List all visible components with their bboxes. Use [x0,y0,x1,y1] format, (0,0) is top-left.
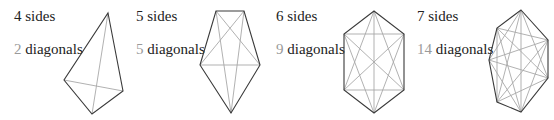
diagonal-line [92,13,108,114]
polygon-outline [200,11,260,113]
polygon-6 [344,11,404,113]
polygon-diagrams [0,0,554,120]
diagonal-line [64,80,123,91]
polygon-7 [489,10,548,112]
diagonal-line [231,11,244,113]
diagonal-line [497,28,521,112]
polygon-outline [489,10,548,112]
diagonal-line [489,10,521,60]
diagonal-line [200,11,244,65]
polygon-outline [64,13,123,114]
polygon-4 [64,13,123,114]
diagonal-line [497,78,548,102]
diagonal-line [521,40,548,112]
diagonal-line [489,40,548,60]
diagonal-line [497,28,548,40]
polygon-5 [200,11,260,113]
